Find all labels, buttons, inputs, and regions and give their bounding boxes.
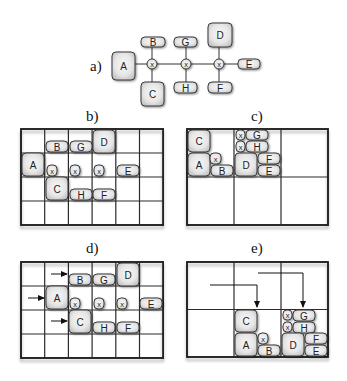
node-label: G [77, 142, 85, 153]
node-b: B [46, 141, 68, 153]
node-label: B [150, 37, 157, 48]
junction-node: x [70, 298, 80, 309]
junction-label: x [97, 300, 101, 309]
node-g: G [93, 274, 115, 286]
node-a: A [188, 153, 210, 176]
node-label: D [100, 137, 107, 148]
node-label: D [289, 340, 296, 351]
node-c: C [46, 177, 68, 200]
figure-svg: a)ABCGHDFExxxb)BGDAxxxECHFc)CAxBxGxHDFEd… [0, 0, 347, 381]
node-h: H [70, 189, 92, 201]
node-label: C [242, 316, 249, 327]
node-e: E [140, 298, 162, 310]
panel-label-b: b) [86, 108, 99, 125]
node-label: A [196, 160, 203, 171]
node-label: B [77, 275, 84, 286]
panel-label-a: a) [90, 58, 102, 75]
junction-node: x [70, 165, 80, 176]
junction-node: x [94, 298, 104, 309]
junction-node: x [47, 165, 57, 176]
node-label: F [125, 323, 131, 334]
node-label: B [266, 346, 273, 357]
panel-label-d: d) [86, 240, 99, 257]
node-h: H [246, 141, 268, 153]
node-label: A [243, 340, 250, 351]
node-label: F [313, 334, 319, 345]
node-label: C [53, 184, 60, 195]
panel-b: b)BGDAxxxECHF [21, 108, 163, 225]
node-f: F [258, 153, 280, 165]
panel-a: a)ABCGHDFExxx [90, 23, 260, 106]
node-g: G [174, 37, 197, 48]
panel-e: e)CAxBxGxHDFE [187, 240, 328, 357]
junction-node: x [258, 333, 268, 344]
node-f: F [208, 82, 232, 94]
node-f: F [117, 322, 139, 334]
node-label: D [216, 30, 223, 41]
node-h: H [293, 322, 315, 334]
node-label: E [266, 166, 273, 177]
node-label: H [100, 323, 107, 334]
junction-node: x [147, 59, 157, 69]
panel-label-e: e) [251, 240, 263, 257]
node-label: G [300, 311, 308, 322]
junction-node: x [117, 298, 127, 309]
node-e: E [117, 165, 139, 177]
node-c: C [235, 310, 257, 332]
node-label: H [77, 190, 84, 201]
junction-node: x [283, 322, 292, 332]
node-label: D [124, 270, 131, 281]
node-a: A [112, 52, 135, 80]
node-label: C [195, 136, 202, 147]
panel-d: d)BGDAxxxECHF [21, 240, 163, 358]
node-b: B [258, 345, 280, 357]
node-c: C [141, 82, 164, 106]
junction-node: x [181, 59, 191, 69]
node-e: E [238, 59, 260, 70]
panel-label-c: c) [251, 108, 263, 125]
junction-label: x [214, 155, 218, 164]
junction-node: x [283, 310, 292, 320]
node-d: D [208, 23, 232, 47]
node-b: B [211, 165, 233, 177]
node-label: H [182, 83, 189, 94]
node-label: E [246, 59, 253, 70]
node-d: D [117, 263, 139, 286]
node-label: E [313, 346, 320, 357]
node-a: A [46, 286, 68, 309]
junction-node: x [236, 130, 245, 140]
node-b: B [69, 274, 91, 286]
node-d: D [93, 130, 115, 153]
node-a: A [22, 153, 44, 176]
node-label: C [149, 89, 156, 100]
node-label: C [76, 317, 83, 328]
node-f: F [93, 189, 115, 201]
node-label: B [219, 166, 226, 177]
node-label: A [54, 293, 61, 304]
junction-label: x [286, 311, 290, 320]
node-d: D [235, 153, 257, 176]
node-e: E [305, 345, 327, 357]
node-h: H [174, 82, 197, 94]
junction-label: x [97, 167, 101, 176]
node-a: A [235, 333, 257, 356]
node-label: F [266, 154, 272, 165]
junction-node: x [214, 59, 224, 69]
node-label: G [253, 130, 261, 141]
junction-node: x [94, 165, 104, 176]
figure-canvas: a)ABCGHDFExxxb)BGDAxxxECHFc)CAxBxGxHDFEd… [0, 0, 347, 381]
panel-c: c)CAxBxGxHDFE [187, 108, 328, 225]
node-f: F [305, 333, 327, 345]
node-label: A [30, 160, 37, 171]
node-label: G [182, 37, 190, 48]
junction-node: x [210, 153, 221, 164]
node-label: D [242, 160, 249, 171]
node-g: G [246, 130, 268, 141]
junction-label: x [150, 60, 154, 69]
junction-label: x [217, 60, 221, 69]
node-b: B [141, 37, 165, 48]
node-label: H [253, 142, 260, 153]
node-g: G [293, 310, 315, 322]
junction-label: x [239, 143, 243, 152]
junction-label: x [73, 167, 77, 176]
